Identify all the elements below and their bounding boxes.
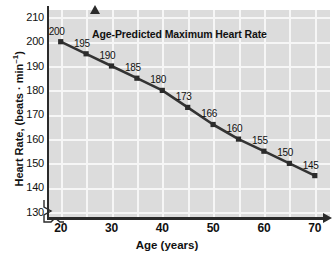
data-point-label: 180 [150, 75, 166, 85]
data-point-label: 160 [227, 124, 243, 134]
series-layer [0, 0, 334, 257]
data-point-marker [185, 105, 190, 110]
data-point-label: 185 [125, 63, 141, 73]
data-point-label: 173 [176, 92, 192, 102]
data-point-marker [58, 39, 63, 44]
data-point-label: 190 [100, 51, 116, 61]
data-point-marker [84, 51, 89, 56]
data-point-marker [211, 122, 216, 127]
data-point-label: 195 [74, 39, 90, 49]
data-point-marker [160, 88, 165, 93]
data-point-label: 166 [201, 109, 217, 119]
data-point-marker [312, 173, 317, 178]
data-point-label: 155 [252, 136, 268, 146]
data-point-label: 150 [277, 148, 293, 158]
data-point-marker [236, 137, 241, 142]
data-point-marker [261, 149, 266, 154]
heart-rate-chart: 210200190180170160150140130 203040506070… [0, 0, 334, 257]
data-point-marker [134, 76, 139, 81]
data-point-marker [287, 161, 292, 166]
data-point-label: 200 [49, 27, 65, 37]
data-point-label: 145 [303, 161, 319, 171]
data-point-marker [109, 63, 114, 68]
